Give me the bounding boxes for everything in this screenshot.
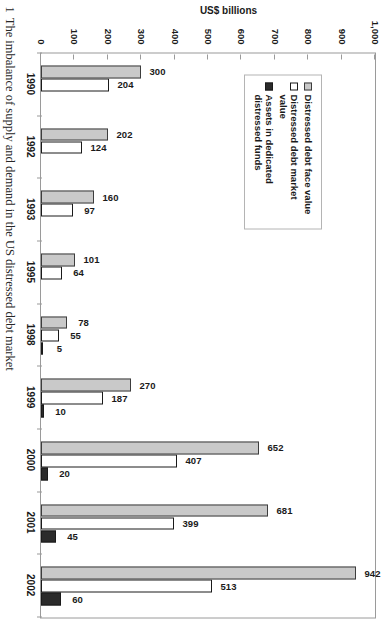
category-axis-tick-mark (37, 428, 42, 429)
bar-group: 94251360 (41, 566, 375, 605)
category-axis-tick-mark (37, 616, 42, 617)
legend-item-label: Distressed debt market value (278, 94, 300, 219)
value-axis-title: US$ billions (169, 5, 289, 16)
bar-value-label: 160 (97, 191, 125, 202)
value-axis-tick-mark (374, 54, 375, 59)
bar (41, 266, 62, 279)
value-axis-tick-mark (341, 54, 342, 59)
bar-group: 68139945 (41, 504, 375, 543)
figure-container: 3002042021241609710164785552701871065240… (0, 0, 384, 627)
category-axis-tick-mark (37, 240, 42, 241)
value-axis-tick-label: 700 (269, 28, 280, 44)
category-axis-label: 2001 (25, 511, 36, 533)
category-axis-tick-mark (37, 177, 42, 178)
legend-item: Distressed debt market value (278, 82, 300, 219)
chart-legend: Distressed debt face valueDistressed deb… (244, 74, 322, 229)
bar (41, 467, 48, 480)
legend-swatch-icon (304, 82, 312, 90)
value-axis-tick-mark (274, 54, 275, 59)
bar-value-label: 20 (50, 468, 78, 479)
bar (41, 404, 44, 417)
value-axis-tick-mark (207, 54, 208, 59)
bar (41, 190, 94, 203)
value-axis-tick-mark (140, 54, 141, 59)
bar-value-label: 97 (76, 204, 104, 215)
bar-group: 202124 (41, 128, 375, 167)
bar-value-label: 60 (64, 593, 92, 604)
bar-value-label: 270 (134, 379, 162, 390)
legend-swatch-icon (290, 82, 298, 90)
bar-value-label: 187 (106, 392, 134, 403)
value-axis-tick-label: 0 (36, 39, 47, 44)
value-axis-tick-mark (40, 54, 41, 59)
chart-plot-frame: 3002042021241609710164785552701871065240… (40, 52, 376, 618)
bar-value-label: 652 (261, 442, 289, 453)
bar (41, 203, 73, 216)
bar-group: 78555 (41, 316, 375, 355)
category-axis-tick-mark (37, 303, 42, 304)
category-axis-labels: 199019921993199519981999200020012002 (14, 52, 36, 618)
category-axis-tick-mark (37, 365, 42, 366)
bar (41, 579, 212, 592)
bar-group: 16097 (41, 190, 375, 229)
category-axis-label: 2002 (25, 574, 36, 596)
value-axis-tick-label: 100 (69, 28, 80, 44)
bar-value-label: 202 (111, 129, 139, 140)
bar-group: 10164 (41, 253, 375, 292)
bar (41, 530, 56, 543)
value-axis-tick-mark (73, 54, 74, 59)
value-axis-tick-label: 800 (303, 28, 314, 44)
bar (41, 378, 131, 391)
bar (41, 128, 108, 141)
legend-item-label: Distressed debt face value (303, 94, 314, 214)
legend-swatch-icon (265, 82, 273, 90)
bar (41, 78, 109, 91)
bar-group: 300204 (41, 65, 375, 104)
value-axis-tick-mark (107, 54, 108, 59)
category-axis-tick-mark (37, 115, 42, 116)
value-axis-tick-mark (240, 54, 241, 59)
bar (41, 391, 103, 404)
figure-number: 1 (3, 6, 17, 12)
bar-value-label: 101 (77, 254, 105, 265)
bar (41, 253, 75, 266)
legend-item-label: Assets in dedicated distressed funds (253, 94, 275, 219)
value-axis-tick-mark (307, 54, 308, 59)
value-axis-tick-label: 1,000 (370, 20, 381, 44)
bar (41, 566, 356, 579)
bar-value-label: 55 (62, 330, 90, 341)
bar (41, 517, 174, 530)
bar-value-label: 45 (59, 531, 87, 542)
plot-area: 3002042021241609710164785552701871065240… (41, 53, 375, 617)
bar-value-label: 78 (70, 317, 98, 328)
bar-group: 65240720 (41, 441, 375, 480)
figure-caption-text: The imbalance of supply and demand in th… (3, 17, 17, 370)
category-axis-label: 1998 (25, 323, 36, 345)
category-axis-tick-mark (37, 52, 42, 53)
value-axis-tick-label: 500 (203, 28, 214, 44)
bar (41, 316, 67, 329)
bar-value-label: 204 (112, 79, 140, 90)
bar-value-label: 399 (177, 518, 205, 529)
value-axis-tick-label: 200 (102, 28, 113, 44)
value-axis-tick-label: 600 (236, 28, 247, 44)
category-axis-label: 1993 (25, 198, 36, 220)
value-axis-tick-label: 400 (169, 28, 180, 44)
category-axis-label: 2000 (25, 448, 36, 470)
legend-item: Distressed debt face value (303, 82, 314, 219)
bar (41, 454, 177, 467)
bar-value-label: 942 (358, 567, 384, 578)
legend-item: Assets in dedicated distressed funds (253, 82, 275, 219)
category-axis-label: 1990 (25, 72, 36, 94)
bar-value-label: 681 (271, 505, 299, 516)
value-axis-tick-label: 900 (336, 28, 347, 44)
category-axis-label: 1999 (25, 386, 36, 408)
bar-value-label: 300 (144, 66, 172, 77)
bar-value-label: 5 (45, 343, 73, 354)
value-axis-tick-label: 300 (136, 28, 147, 44)
bar-value-label: 10 (47, 405, 75, 416)
bar-value-label: 407 (179, 455, 207, 466)
bar (41, 329, 59, 342)
category-axis-tick-mark (37, 491, 42, 492)
bar-value-label: 124 (85, 142, 113, 153)
